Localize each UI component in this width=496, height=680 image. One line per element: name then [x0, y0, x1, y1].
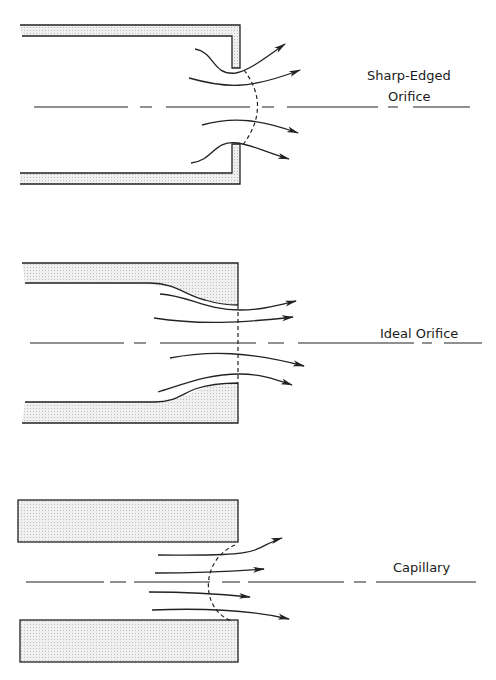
sharp-edged-orifice-panel: Sharp-Edged Orifice: [20, 25, 470, 184]
ideal-orifice-panel: Ideal Orifice: [22, 263, 482, 423]
vena-contracta-arc: [242, 70, 258, 146]
orifice-flow-diagram: Sharp-Edged Orifice Ideal Orifice Capi: [0, 0, 496, 680]
label-orifice: Orifice: [388, 89, 431, 104]
capillary-panel: Capillary: [18, 500, 476, 662]
top-wall: [20, 25, 240, 68]
top-block: [18, 500, 238, 542]
top-block: [22, 263, 238, 305]
label-capillary: Capillary: [393, 560, 450, 575]
label-ideal-orifice: Ideal Orifice: [380, 326, 458, 341]
bottom-wall: [20, 144, 240, 184]
label-sharp-edged: Sharp-Edged: [367, 68, 451, 83]
bottom-block: [22, 383, 238, 423]
bottom-block: [20, 620, 238, 662]
